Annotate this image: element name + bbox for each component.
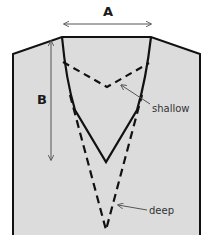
label-deep: deep [149,205,174,216]
label-a: A [103,4,113,19]
v-neck-diagram: A B shallow deep [0,0,208,245]
label-b: B [37,92,47,107]
label-shallow: shallow [152,103,190,114]
